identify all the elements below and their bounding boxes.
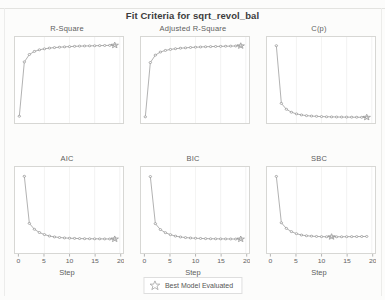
legend-label: Best Model Evaluated bbox=[165, 282, 233, 289]
panel-title-adjusted-r-square: Adjusted R-Square bbox=[132, 24, 254, 33]
panel-title-aic: AIC bbox=[6, 154, 128, 163]
svg-text:0: 0 bbox=[17, 258, 21, 265]
scan-border-right bbox=[381, 8, 382, 296]
x-axis-label-bic: Step bbox=[132, 268, 254, 277]
panel-title-sbc: SBC bbox=[258, 154, 380, 163]
scan-border-top bbox=[0, 8, 385, 9]
plot-r-square bbox=[14, 36, 124, 124]
x-axis-label-aic: Step bbox=[6, 268, 128, 277]
plot-aic bbox=[14, 166, 124, 254]
x-axis-label-sbc: Step bbox=[258, 268, 380, 277]
svg-text:5: 5 bbox=[42, 258, 46, 265]
panel-title-r-square: R-Square bbox=[6, 24, 128, 33]
svg-text:10: 10 bbox=[318, 258, 326, 265]
plot-adjusted-r-square bbox=[140, 36, 250, 124]
plot-sbc bbox=[266, 166, 376, 254]
svg-text:15: 15 bbox=[343, 258, 351, 265]
svg-text:15: 15 bbox=[91, 258, 99, 265]
star-icon bbox=[149, 280, 160, 291]
chart-canvas: Fit Criteria for sqrt_revol_bal R-Square… bbox=[0, 0, 385, 300]
svg-text:15: 15 bbox=[217, 258, 225, 265]
svg-text:20: 20 bbox=[243, 258, 250, 265]
panel-title-bic: BIC bbox=[132, 154, 254, 163]
panel-aic: AIC 05101520 Step bbox=[6, 154, 128, 282]
panel-bic: BIC 05101520 Step bbox=[132, 154, 254, 282]
plot-cp bbox=[266, 36, 376, 124]
panel-grid: R-Square Adjusted R-Square C(p) AIC 0510… bbox=[6, 24, 380, 282]
panel-title-cp: C(p) bbox=[258, 24, 380, 33]
panel-cp: C(p) bbox=[258, 24, 380, 152]
svg-text:5: 5 bbox=[294, 258, 298, 265]
scan-border-left bbox=[4, 8, 5, 296]
svg-text:5: 5 bbox=[168, 258, 172, 265]
svg-text:20: 20 bbox=[369, 258, 376, 265]
plot-bic bbox=[140, 166, 250, 254]
panel-r-square: R-Square bbox=[6, 24, 128, 152]
svg-text:10: 10 bbox=[192, 258, 200, 265]
legend: Best Model Evaluated bbox=[143, 277, 242, 294]
svg-text:20: 20 bbox=[117, 258, 124, 265]
page-title: Fit Criteria for sqrt_revol_bal bbox=[0, 10, 385, 21]
panel-sbc: SBC 05101520 Step bbox=[258, 154, 380, 282]
svg-text:0: 0 bbox=[269, 258, 273, 265]
svg-text:0: 0 bbox=[143, 258, 147, 265]
panel-adjusted-r-square: Adjusted R-Square bbox=[132, 24, 254, 152]
svg-text:10: 10 bbox=[66, 258, 74, 265]
